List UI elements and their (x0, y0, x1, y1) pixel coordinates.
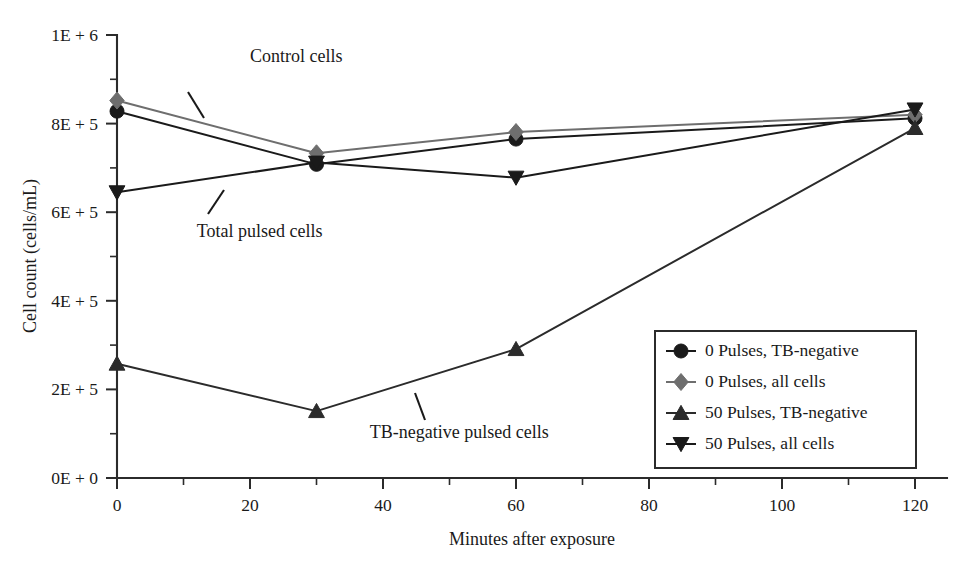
data-point-circle (674, 344, 688, 358)
x-axis-ticks (117, 478, 915, 489)
line-chart: 0E + 02E + 54E + 56E + 58E + 51E + 6 020… (0, 0, 969, 578)
leader-line-total-pulsed-cells (208, 190, 224, 214)
y-tick-label: 2E + 5 (51, 379, 98, 399)
series-markers (109, 103, 923, 200)
x-tick-label: 60 (507, 495, 525, 515)
legend: 0 Pulses, TB-negative0 Pulses, all cells… (655, 331, 916, 468)
data-point-triangle-up (508, 341, 524, 355)
y-axis-title: Cell count (cells/mL) (20, 179, 41, 333)
legend-entry-label: 0 Pulses, TB-negative (705, 340, 859, 360)
chart-annotation: Total pulsed cells (197, 221, 323, 241)
x-tick-label: 40 (374, 495, 392, 515)
legend-entry-label: 50 Pulses, TB-negative (705, 402, 868, 422)
data-point-triangle-down (508, 171, 524, 185)
x-tick-label: 100 (769, 495, 796, 515)
x-tick-label: 80 (640, 495, 658, 515)
legend-entry-label: 0 Pulses, all cells (705, 371, 826, 391)
y-tick-label: 6E + 5 (51, 202, 98, 222)
y-tick-label: 1E + 6 (51, 25, 98, 45)
annotations-group: Control cellsTotal pulsed cellsTB-negati… (197, 46, 549, 443)
x-axis-title: Minutes after exposure (449, 529, 615, 549)
legend-entry-label: 50 Pulses, all cells (705, 433, 834, 453)
leader-line-tb-negative-pulsed-cells (415, 393, 425, 420)
y-tick-label: 0E + 0 (51, 468, 98, 488)
series-markers (110, 92, 922, 162)
chart-annotation: TB-negative pulsed cells (370, 422, 549, 442)
y-axis-tick-labels: 0E + 02E + 54E + 56E + 58E + 51E + 6 (51, 25, 98, 488)
y-tick-label: 8E + 5 (51, 114, 98, 134)
x-tick-label: 20 (241, 495, 259, 515)
y-tick-label: 4E + 5 (51, 291, 98, 311)
leader-line-control-cells (188, 92, 204, 118)
data-point-triangle-down (109, 186, 125, 200)
annotation-leaders (188, 92, 425, 420)
x-tick-label: 120 (902, 495, 929, 515)
x-axis-tick-labels: 020406080100120 (113, 495, 929, 515)
chart-annotation: Control cells (250, 46, 343, 66)
x-tick-label: 0 (113, 495, 122, 515)
data-point-triangle-up (109, 356, 125, 370)
figure-container: 0E + 02E + 54E + 56E + 58E + 51E + 6 020… (0, 0, 969, 578)
